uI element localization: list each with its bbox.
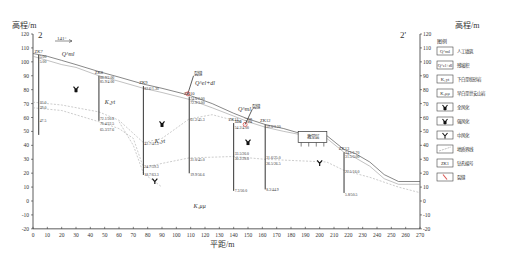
y-tick-label-left: 30 [24, 156, 30, 162]
geologic-boundary-line [33, 102, 234, 142]
fault-label: 裂缝 [194, 70, 203, 77]
weathering-strong-icon [246, 140, 251, 146]
y-tick-label-right: 20 [423, 170, 429, 176]
legend-item: K₁μμ早白垩世安山岩 [437, 89, 486, 97]
x-tick-label: 130 [215, 232, 224, 238]
x-tick-label: 100 [172, 232, 181, 238]
borehole-depth-label: 5.00 [40, 60, 47, 64]
y-tick-label-left: 40 [24, 142, 30, 148]
y-tick-label-right: 60 [423, 115, 429, 121]
direction-label: 141° [57, 36, 67, 41]
y-tick-label-left: 110 [21, 45, 29, 51]
x-tick-label: 120 [201, 232, 210, 238]
x-tick-label: 230 [359, 232, 368, 238]
legend-item: 强风化 [437, 117, 470, 125]
strata-label: Q^ml [62, 51, 75, 57]
y-tick-label-left: 70 [24, 101, 30, 107]
borehole-id-label: ZK12 [260, 118, 271, 123]
weathering-strong-icon [160, 121, 165, 127]
x-tick-label: 270 [416, 232, 425, 238]
borehole-depth-label: 5.00 [40, 55, 47, 59]
legend-item: Q^el+dl残坡积 [437, 61, 470, 69]
borehole-depth-label: 54.2/4.00 [235, 126, 249, 130]
y-tick-label-left: 120 [21, 31, 30, 37]
borehole-depth-label: 7.90 [235, 120, 242, 124]
x-tick-label: 190 [301, 232, 310, 238]
y-tick-label-left: -10 [22, 212, 30, 218]
borehole-depth-label: 65.3/37.6 [100, 128, 114, 132]
legend-label: 下白垩统砂岩 [457, 76, 482, 83]
borehole-depth-label: 19.9/56.6 [190, 173, 204, 177]
borehole-depth-label: 26.5/26.5 [266, 162, 280, 166]
x-tick-label: 60 [116, 232, 122, 238]
legend-symbol-text: Q^ml [440, 49, 451, 54]
legend-label: 地质界线 [457, 146, 474, 153]
x-tick-label: 110 [187, 232, 195, 238]
legend-label: 强风化 [457, 118, 470, 125]
geologic-boundary-line [119, 122, 162, 187]
cross-section-diagram: 1201201101101001009090808070706060505040… [0, 0, 510, 260]
legend-item: ZK1钻孔编号 [437, 159, 474, 167]
legend-label: 中风化 [457, 132, 470, 139]
strata-label: K₁yt [154, 138, 166, 144]
y-tick-label-left: 100 [21, 59, 30, 65]
y-tick-label-right: 100 [423, 59, 432, 65]
y-tick-label-left: 90 [24, 73, 30, 79]
legend-label: 全风化 [457, 104, 470, 111]
borehole-depth-label: 18.7/63.3 [144, 173, 158, 177]
strata-label: K₁μμ [193, 203, 206, 209]
borehole-depth-label: 31.5/3.00 [345, 155, 359, 159]
x-tick-label: 90 [159, 232, 165, 238]
y-tick-label-right: 110 [423, 45, 431, 51]
borehole-depth-label: 31.0/45.0 [190, 158, 204, 162]
section-start-label: 2 [38, 30, 43, 40]
legend-item: 全风化 [437, 103, 470, 111]
section-end-label: 2' [400, 30, 407, 40]
borehole-depth-label: 24.7/59.3 [144, 165, 158, 169]
borehole-id-label: ZK9 [139, 80, 148, 85]
legend-symbol-text: Q^el+dl [438, 63, 453, 68]
x-tick-label: 180 [287, 232, 296, 238]
y-tick-label-right: 50 [423, 128, 429, 134]
x-tick-label: 50 [102, 232, 108, 238]
strata-label: Q^el+dl [195, 80, 215, 86]
x-axis-label: 平距/m [210, 240, 235, 249]
y-axis-label-right: 高程/m [455, 20, 480, 30]
y-tick-label-left: -20 [22, 226, 30, 232]
legend-label: 裂缝 [457, 174, 466, 181]
x-tick-label: 40 [88, 232, 94, 238]
y-tick-label-left: 20 [24, 170, 30, 176]
y-axis-label-left: 高程/m [12, 20, 37, 30]
legend-item: 中风化 [437, 131, 470, 139]
legend-item: Q^ml人工填筑 [437, 47, 474, 55]
y-tick-label-left: 80 [24, 87, 30, 93]
y-tick-label-left: 50 [24, 128, 30, 134]
borehole-depth-label: 33.5/26.0 [235, 152, 249, 156]
y-tick-label-right: 70 [423, 101, 429, 107]
x-tick-label: 260 [402, 232, 411, 238]
y-tick-label-left: 0 [26, 198, 29, 204]
weathering-medium-icon [317, 160, 322, 166]
y-tick-label-right: -10 [423, 212, 431, 218]
borehole-depth-label: 30.2/28.0 [235, 157, 249, 161]
x-tick-label: 70 [131, 232, 137, 238]
borehole-id-label: ZK8 [95, 70, 104, 75]
x-tick-label: 250 [387, 232, 396, 238]
y-tick-label-right: 40 [423, 142, 429, 148]
borehole-depth-label: 59.0/3.20 [266, 125, 280, 129]
x-tick-label: 220 [344, 232, 353, 238]
geologic-boundary-line [33, 108, 420, 193]
section-note-label: 三段 [244, 117, 253, 124]
x-tick-label: 150 [244, 232, 253, 238]
borehole-depth-label: 8.3/44.9 [266, 188, 279, 192]
legend-symbol-text: K₁μμ [440, 91, 450, 96]
y-tick-label-left: 60 [24, 115, 30, 121]
x-tick-label: 140 [230, 232, 239, 238]
x-tick-label: 10 [45, 232, 51, 238]
y-tick-label-right: 30 [423, 156, 429, 162]
legend-title: 图例 [437, 38, 447, 45]
strata-label: Q^ml [238, 106, 251, 112]
x-tick-label: 0 [32, 232, 35, 238]
borehole-id-label: ZK7 [35, 49, 44, 54]
legend-symbol-text: ZK1 [441, 161, 449, 166]
